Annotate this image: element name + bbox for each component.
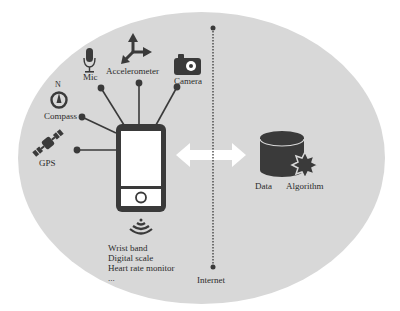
camera-icon (174, 54, 201, 75)
smartphone-icon (116, 124, 166, 212)
bidirectional-arrow-icon (176, 143, 246, 167)
wireless-device-item: Digital scale (108, 253, 174, 263)
wireless-device-item: Heart rate monitor (108, 263, 174, 273)
algorithm-label: Algorithm (286, 181, 324, 191)
compass-label: Compass (44, 111, 77, 121)
wireless-device-item: ... (108, 273, 174, 283)
axes-arrows-icon (121, 33, 152, 64)
data-label: Data (255, 181, 272, 191)
mic-label: Mic (83, 72, 98, 82)
wireless-signal-icon (130, 219, 152, 234)
gps-label: GPS (39, 158, 56, 168)
internet-label: Internet (197, 275, 225, 285)
compass-icon (52, 93, 67, 108)
compass-north-label: N (55, 80, 61, 90)
algorithm-starburst-icon (292, 152, 318, 178)
camera-label: Camera (174, 76, 202, 86)
wireless-device-item: Wrist band (108, 243, 174, 253)
microphone-icon (84, 48, 95, 73)
internet-boundary-line (211, 26, 216, 270)
accelerometer-label: Accelerometer (106, 66, 159, 76)
satellite-icon (31, 128, 65, 159)
wireless-devices-list: Wrist band Digital scale Heart rate moni… (108, 243, 174, 283)
diagram-graphics (0, 0, 400, 311)
